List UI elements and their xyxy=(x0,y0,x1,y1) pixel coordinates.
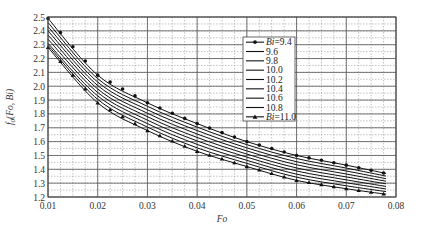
chart-container: 1.21.31.41.51.61.71.81.92.02.12.22.32.42… xyxy=(0,0,422,230)
circle-marker-icon xyxy=(295,154,299,158)
circle-marker-icon xyxy=(282,150,286,154)
circle-marker-icon xyxy=(357,166,361,170)
circle-marker-icon xyxy=(133,94,137,98)
y-tick-label: 1.3 xyxy=(33,179,45,189)
x-axis-label: Fo xyxy=(216,214,228,224)
x-tick-label: 0.05 xyxy=(239,201,256,211)
series-line xyxy=(48,43,386,189)
series-line xyxy=(48,35,386,184)
circle-marker-icon xyxy=(183,117,187,121)
y-axis-label-args: (Fo, Bi) xyxy=(5,89,16,119)
legend-label-value: =11.0 xyxy=(274,112,296,122)
y-tick-label: 1.8 xyxy=(33,109,45,119)
circle-marker-icon xyxy=(253,40,257,44)
circle-marker-icon xyxy=(320,159,324,163)
y-axis-label: f0(Fo, Bi) xyxy=(5,89,17,125)
circle-marker-icon xyxy=(59,31,63,35)
y-tick-label: 1.7 xyxy=(33,123,45,133)
x-tick-label: 0.04 xyxy=(189,201,206,211)
x-tick-label: 0.03 xyxy=(139,201,156,211)
y-tick-label: 2.3 xyxy=(33,40,45,50)
circle-marker-icon xyxy=(270,147,274,151)
circle-marker-icon xyxy=(71,45,75,49)
circle-marker-icon xyxy=(158,106,162,110)
circle-marker-icon xyxy=(257,143,261,147)
y-tick-label: 2.5 xyxy=(33,13,45,23)
y-tick-label: 2.2 xyxy=(33,54,45,64)
circle-marker-icon xyxy=(195,122,199,126)
y-axis-ticks: 1.21.31.41.51.61.71.81.92.02.12.22.32.42… xyxy=(33,13,45,203)
series-line xyxy=(48,23,386,177)
x-tick-label: 0.08 xyxy=(388,201,405,211)
circle-marker-icon xyxy=(369,169,373,173)
y-tick-label: 1.6 xyxy=(33,137,45,147)
circle-marker-icon xyxy=(170,111,174,115)
y-tick-label: 1.9 xyxy=(33,96,45,106)
circle-marker-icon xyxy=(233,135,237,139)
x-tick-label: 0.07 xyxy=(338,201,355,211)
circle-marker-icon xyxy=(96,73,100,77)
legend: Bi=9.49.69.810.010.210.410.610.8Bi=11.0 xyxy=(243,37,296,122)
svg-text:f0(Fo, Bi): f0(Fo, Bi) xyxy=(5,89,17,125)
x-tick-label: 0.02 xyxy=(89,201,106,211)
y-tick-label: 2.4 xyxy=(33,26,45,36)
circle-marker-icon xyxy=(83,59,87,63)
circle-marker-icon xyxy=(307,156,311,160)
x-tick-label: 0.01 xyxy=(40,201,57,211)
circle-marker-icon xyxy=(245,140,249,144)
x-axis-ticks: 0.010.020.030.040.050.060.070.08 xyxy=(40,201,405,211)
circle-marker-icon xyxy=(220,131,224,135)
y-tick-label: 1.5 xyxy=(33,151,45,161)
legend-label: Bi=11.0 xyxy=(266,112,296,122)
y-tick-label: 2.1 xyxy=(33,68,45,78)
circle-marker-icon xyxy=(108,80,112,84)
circle-marker-icon xyxy=(332,161,336,165)
x-tick-label: 0.06 xyxy=(288,201,305,211)
series-line xyxy=(48,39,386,186)
y-tick-label: 1.4 xyxy=(33,165,45,175)
circle-marker-icon xyxy=(121,87,125,91)
circle-marker-icon xyxy=(146,101,150,105)
circle-marker-icon xyxy=(344,163,348,167)
series-line xyxy=(48,31,386,181)
circle-marker-icon xyxy=(382,171,386,175)
line-chart: 1.21.31.41.51.61.71.81.92.02.12.22.32.42… xyxy=(0,0,422,230)
y-tick-label: 2.0 xyxy=(33,82,45,92)
circle-marker-icon xyxy=(208,126,212,130)
series-line xyxy=(48,18,386,173)
